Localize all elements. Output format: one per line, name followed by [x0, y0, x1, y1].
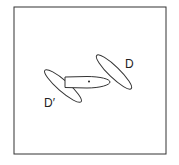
center-point — [88, 81, 90, 83]
label-d: D — [125, 57, 134, 71]
diagram-canvas: D D′ — [0, 0, 179, 165]
center-ellipse — [65, 77, 110, 89]
label-d-prime: D′ — [44, 96, 56, 110]
